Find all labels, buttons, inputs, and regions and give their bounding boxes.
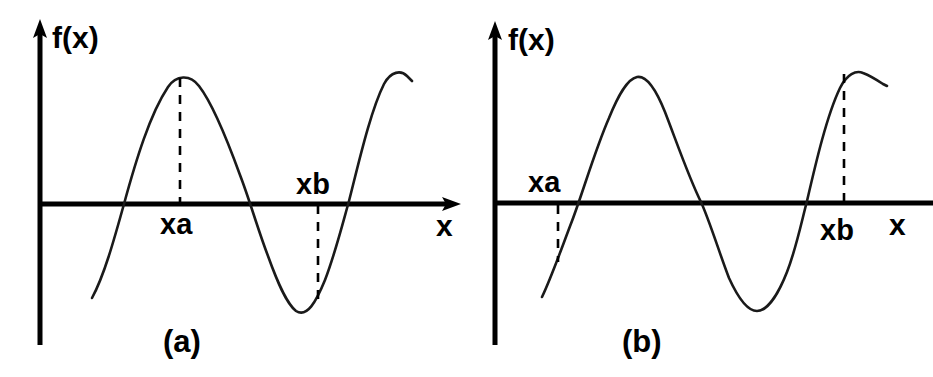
function-curve	[542, 72, 887, 311]
panel-b-svg: f(x) x xa xb (b)	[467, 0, 933, 377]
y-axis-label: f(x)	[508, 23, 555, 56]
y-axis-label: f(x)	[52, 21, 99, 54]
xb-label: xb	[296, 168, 330, 200]
panel-caption: (b)	[622, 324, 662, 359]
x-axis-label: x	[889, 208, 906, 241]
xa-label: xa	[528, 166, 561, 198]
panel-b: f(x) x xa xb (b)	[467, 0, 933, 377]
xa-label: xa	[160, 208, 193, 240]
xb-label: xb	[820, 214, 854, 246]
function-curve	[92, 72, 412, 312]
panel-a: f(x) x xa xb (a)	[0, 0, 466, 377]
figure-root: f(x) x xa xb (a) f(x) x xa xb	[0, 0, 933, 377]
x-axis-label: x	[436, 209, 453, 242]
panel-a-svg: f(x) x xa xb (a)	[0, 0, 466, 377]
panel-caption: (a)	[163, 324, 201, 359]
